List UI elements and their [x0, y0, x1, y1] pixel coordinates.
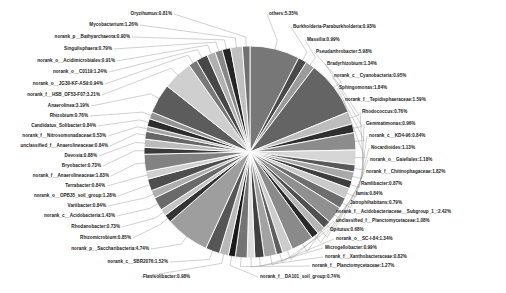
- slice-label: Rhodococcus:0.76%: [362, 110, 407, 115]
- slice-label: norank_f__Nitrosomonadaceae:0.53%: [22, 134, 106, 139]
- slice-label: Rhizomicrobium:0.85%: [80, 236, 131, 241]
- leader-line: [107, 175, 148, 186]
- slice-label: Rhizobium:0.76%: [50, 114, 88, 119]
- slice-label: norank_f__Planctomycetaceae:1.27%: [312, 264, 394, 269]
- slice-label: norank_o__JG30-KF-AS9:0.94%: [33, 82, 103, 87]
- slice-label: Microgellobacter:0.99%: [325, 246, 377, 251]
- slice-label: norank_o__C0119:1.24%: [53, 70, 107, 75]
- leader-line: [117, 204, 159, 216]
- leader-line: [111, 163, 146, 176]
- slice-label: norank_c__Cyanobacteria:0.95%: [334, 74, 406, 79]
- slice-label: others:5.35%: [269, 12, 298, 17]
- slice-label: norank_c__Acidobacteria:1.43%: [44, 214, 115, 219]
- slice-label: Bryobacter:0.73%: [62, 164, 101, 169]
- slice-label: Sphingomonas:1.84%: [339, 86, 387, 91]
- slice-label: norank_p__Saccharibacteria:4.74%: [71, 247, 149, 252]
- slice-label: norank_o__Acidimicrobiales:0.91%: [37, 59, 115, 64]
- slice-label: norank_f__HSB_OF53-F07:3.21%: [27, 93, 100, 98]
- leader-line: [90, 112, 152, 116]
- slice-label: Nocardioides:1.13%: [371, 146, 415, 151]
- leader-line: [118, 185, 150, 196]
- leader-line: [91, 94, 159, 106]
- slice-label: norank_o__OPB35_soil_group:1.28%: [34, 194, 116, 199]
- slice-label: norank_f__Tepidisphaeraceae:1.59%: [345, 98, 426, 103]
- slice-label: norank_f__Acidobacteriaceae__Subgroup_1_…: [336, 210, 451, 215]
- slice-label: norank_p__Bathyarchaeota:0.90%: [55, 35, 130, 40]
- slice-label: norank_f__Anaerolineaceae:1.83%: [33, 174, 109, 179]
- slice-label: Terrabacter:0.84%: [65, 184, 105, 189]
- slice-label: Burkholderia-Paraburkholderia:0.93%: [293, 25, 376, 30]
- slice-label: Massilia:0.99%: [307, 38, 340, 43]
- slice-label: Pseudarthrobacter:5.98%: [316, 50, 372, 55]
- slice-label: Oryzihumus:0.81%: [131, 12, 172, 17]
- leader-line: [133, 218, 168, 238]
- slice-label: Variibacter:0.84%: [68, 204, 106, 209]
- slice-label: unclassified_f__Anaerolineaceae:0.84%: [20, 144, 108, 149]
- leader-line: [170, 250, 213, 262]
- slice-label: Iamia:0.84%: [356, 192, 383, 197]
- leader-line: [230, 255, 258, 277]
- slice-label: Opitutus:0.68%: [330, 228, 364, 233]
- leader-line: [140, 25, 237, 48]
- leader-line: [114, 42, 219, 52]
- slice-label: norank_o__SC-I-84:1.34%: [336, 237, 393, 242]
- leader-line: [103, 151, 145, 166]
- leader-line: [117, 45, 211, 61]
- slice-label: Jatrophihabitans:0.79%: [350, 201, 402, 206]
- slice-label: Bradyrhizobium:1.34%: [327, 62, 377, 67]
- leader-line: [98, 120, 149, 126]
- leader-line: [174, 14, 246, 47]
- slice-label: norank_o__Gaiellales:1.18%: [370, 158, 432, 163]
- leader-line: [122, 212, 164, 227]
- slice-label: Devosia:0.88%: [65, 154, 97, 159]
- slice-label: Rhodanobacter:0.73%: [71, 225, 120, 230]
- pie-chart-figure: others:5.35%Burkholderia-Paraburkholderi…: [0, 0, 506, 293]
- slice-label: norank_f__DA101_soil_group:0.74%: [260, 275, 340, 280]
- slice-label: Anaerolinea:3.19%: [48, 104, 89, 109]
- slice-label: norank_f__Chitinophagaceae:1.82%: [366, 170, 445, 175]
- slice-label: norank_c__KD4-96:0.84%: [369, 134, 425, 139]
- slice-label: norank_c__SBR2076:1.52%: [108, 260, 168, 265]
- slice-label: Candidatus_Solibacter:0.84%: [31, 124, 96, 129]
- slice-label: Mycobacterium:1.26%: [89, 23, 138, 28]
- slice-label: Gemmatimonas:0.96%: [366, 122, 415, 127]
- slice-label: Singulisphaera:0.79%: [64, 47, 112, 52]
- slice-label: Flavisolibacter:0.98%: [143, 275, 190, 280]
- leader-line: [132, 37, 227, 50]
- slice-label: norank_f__Xanthobacteraceae:0.82%: [325, 255, 407, 260]
- leader-line: [267, 14, 277, 50]
- leader-line: [151, 236, 187, 249]
- slice-label: unclassified_f__Planctomycetaceae:1.08%: [336, 219, 430, 224]
- leader-line: [110, 134, 146, 146]
- slice-label: Ramlibacter:0.87%: [361, 182, 402, 187]
